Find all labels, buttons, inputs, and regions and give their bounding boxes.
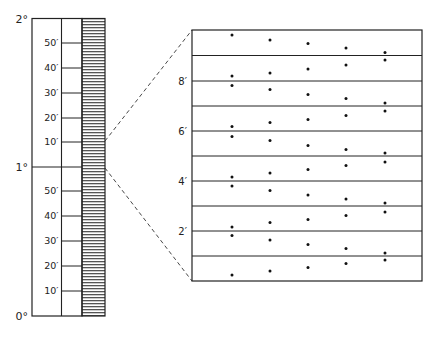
hatched-strip [82, 19, 105, 317]
minute-label: 10′ [44, 136, 58, 147]
dot [384, 252, 387, 255]
dot [231, 125, 234, 128]
degree-label: 2° [16, 13, 29, 26]
dot [345, 114, 348, 117]
minute-label: 50′ [44, 37, 58, 48]
dot [269, 39, 272, 42]
dot [384, 211, 387, 214]
dot [384, 259, 387, 262]
dot [307, 218, 310, 221]
dot [384, 202, 387, 205]
minute-label: 40′ [44, 62, 58, 73]
minute-label: 30′ [44, 87, 58, 98]
dot [269, 139, 272, 142]
degree-label: 0° [16, 310, 29, 323]
dot [231, 84, 234, 87]
dot [269, 221, 272, 224]
dot [307, 168, 310, 171]
magnification-connectors [105, 30, 192, 281]
dot [231, 135, 234, 138]
dot [269, 172, 272, 175]
dot [384, 152, 387, 155]
minute-label: 40′ [44, 210, 58, 221]
minute-label: 10′ [44, 285, 58, 296]
dot [345, 198, 348, 201]
dot [307, 118, 310, 121]
dot [231, 185, 234, 188]
magnified-minute-label: 4′ [178, 176, 187, 187]
dot [269, 270, 272, 273]
degree-scale: 2°1°0°50′40′30′20′10′50′40′30′20′10′ [16, 13, 106, 324]
magnified-section: 8′6′4′2′ [178, 30, 422, 281]
dot [345, 97, 348, 100]
dot [269, 239, 272, 242]
dot [307, 266, 310, 269]
dot [345, 64, 348, 67]
dot [307, 243, 310, 246]
dot [307, 144, 310, 147]
dot [384, 161, 387, 164]
dot [384, 59, 387, 62]
dot [231, 226, 234, 229]
dot [269, 121, 272, 124]
dot [269, 88, 272, 91]
dot [231, 234, 234, 237]
dot [345, 247, 348, 250]
dot [307, 42, 310, 45]
diagram-canvas: 2°1°0°50′40′30′20′10′50′40′30′20′10′ 8′6… [0, 0, 440, 338]
minute-label: 20′ [44, 260, 58, 271]
dot [231, 34, 234, 37]
minute-label: 50′ [44, 185, 58, 196]
dot [307, 194, 310, 197]
minute-label: 30′ [44, 235, 58, 246]
dot [307, 68, 310, 71]
dot [231, 176, 234, 179]
minute-label: 20′ [44, 112, 58, 123]
dot [345, 148, 348, 151]
dot [307, 93, 310, 96]
dot [384, 102, 387, 105]
dot [345, 164, 348, 167]
dot [231, 274, 234, 277]
dot [345, 47, 348, 50]
dot [345, 262, 348, 265]
degree-label: 1° [16, 161, 29, 174]
dot [384, 51, 387, 54]
dot [231, 75, 234, 78]
magnified-minute-label: 2′ [178, 226, 187, 237]
dot [345, 214, 348, 217]
dot [384, 110, 387, 113]
magnified-minute-label: 6′ [178, 126, 187, 137]
magnified-minute-label: 8′ [178, 76, 187, 87]
dot [269, 189, 272, 192]
dot [269, 72, 272, 75]
